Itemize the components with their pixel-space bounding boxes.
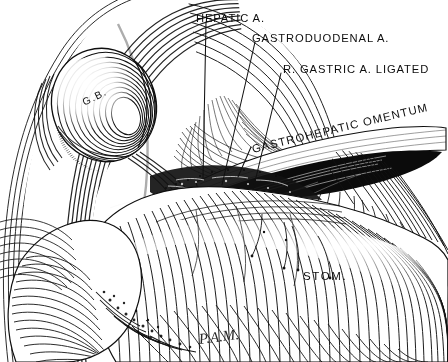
label-stomach: STOM.	[303, 270, 347, 282]
label-right-gastric-artery-ligated: R. GASTRIC A. LIGATED	[283, 63, 429, 75]
label-hepatic-artery: HEPATIC A.	[196, 12, 265, 24]
label-gastroduodenal-artery: GASTRODUODENAL A.	[252, 32, 389, 44]
anatomical-illustration-plate: HEPATIC A. GASTRODUODENAL A. R. GASTRIC …	[0, 0, 448, 362]
engraving-artwork	[0, 0, 448, 362]
